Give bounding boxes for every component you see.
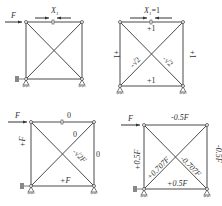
force-right: 0 [96, 150, 100, 159]
load-arrow-icon [5, 21, 22, 24]
cut-marker [52, 20, 54, 24]
force-diagonal-1: -0.707F [179, 154, 204, 179]
pin-support-icon [140, 190, 148, 197]
force-diagonal-2: 0 [73, 130, 77, 139]
force-top: -0.5F [171, 113, 189, 122]
horizontal-restraint-icon [15, 76, 19, 82]
panel-d: F -0.5F +0.5F +0.5F -0.5F +0.707F -0.707… [121, 113, 222, 197]
force-diagonal-2: +0.707F [145, 155, 171, 181]
load-label: F [10, 11, 16, 20]
pin-support-icon [179, 87, 187, 94]
load-arrow-icon [121, 124, 140, 127]
load-label: F [127, 114, 133, 123]
pin-support-icon [90, 187, 98, 194]
force-top: +1 [147, 24, 156, 33]
unit-force-label: X1=1 [143, 6, 160, 16]
force-bottom: +1 [147, 76, 156, 85]
load-arrow-icon [8, 121, 27, 124]
panel-b: X1=1 +1 +1 +1 +1 -√2 -√2 [112, 6, 197, 94]
force-left: +0.5F [133, 150, 142, 170]
force-bottom: +0.5F [167, 179, 187, 188]
pin-support-icon [78, 80, 86, 87]
force-right: -0.5F [214, 145, 222, 163]
horizontal-restraint-icon [20, 183, 24, 189]
force-right: +1 [188, 50, 197, 59]
force-top: 0 [67, 111, 71, 120]
horizontal-restraint-icon [133, 186, 137, 192]
panel-c: F 0 +F +F 0 0 -√2F [8, 111, 100, 194]
force-diagonal-1: -√2 [161, 54, 175, 68]
node [25, 21, 28, 24]
panel-a: F X1 [5, 6, 86, 87]
truss-members [26, 22, 82, 79]
force-left: +F [18, 137, 27, 147]
cut-marker [61, 120, 63, 124]
force-diagonal-2: -√2 [128, 55, 142, 69]
force-left: +1 [112, 50, 121, 59]
truss-diagram: F X1 X1=1 +1 +1 +1 + [0, 0, 222, 206]
node [81, 21, 84, 24]
force-diagonal-1: -√2F [71, 147, 89, 165]
pin-support-icon [27, 187, 35, 194]
unit-force-arrows-icon [130, 17, 172, 20]
force-bottom: +F [60, 176, 70, 185]
redundant-force-arrows-icon [35, 17, 71, 20]
pin-support-icon [203, 190, 211, 197]
pin-support-icon [116, 87, 124, 94]
pin-support-icon [22, 80, 30, 87]
redundant-label: X1 [50, 6, 58, 16]
load-label: F [14, 111, 20, 120]
